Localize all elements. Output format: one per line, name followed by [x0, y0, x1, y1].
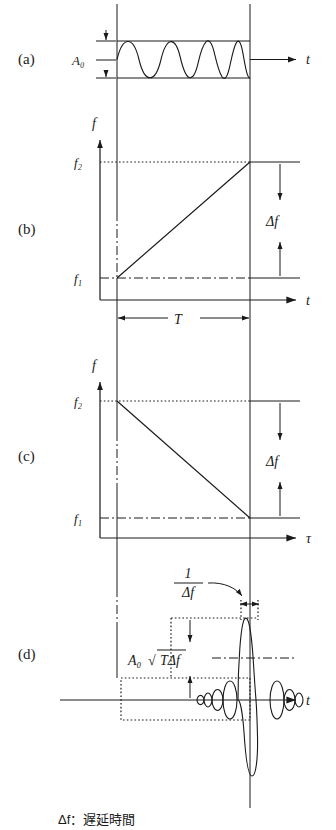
- panel-d-lower-dotted-box: [121, 678, 250, 720]
- panel-a: A₀ t (a): [18, 4, 311, 96]
- panel-c-f2-tick-label: f₂: [74, 394, 83, 409]
- panel-d-peak-amplitude-amplitude: A₀: [127, 653, 142, 668]
- panel-d-peak-amplitude-radicand: TΔf: [160, 653, 182, 668]
- panel-c: f τ f₂ f₁ Δf (c): [18, 336, 312, 568]
- panel-c-frequency-ramp: [117, 401, 250, 518]
- panel-b-f1-tick-label: f₁: [74, 271, 82, 286]
- panel-c-deltaf-label: Δf: [265, 454, 280, 469]
- panel-d: t 1 Δf A₀ √ TΔf (d): [18, 566, 311, 808]
- panel-b-label: (b): [18, 221, 36, 238]
- figure-canvas: A₀ t (a) f t f₂ f₁ Δf: [0, 0, 336, 830]
- panel-b-f2-tick-label: f₂: [74, 155, 83, 170]
- panel-b-frequency-ramp: [117, 162, 250, 278]
- panel-b-duration-label: T: [174, 312, 183, 327]
- panel-a-label: (a): [18, 51, 35, 68]
- panel-c-f1-tick-label: f₁: [74, 511, 82, 526]
- panel-d-width-denominator: Δf: [181, 585, 196, 600]
- figure-caption: Δf：遅延時間: [58, 812, 135, 827]
- panel-a-chirp-waveform: [117, 41, 250, 79]
- panel-d-compressed-pulse-sidelobe-right-3: [295, 693, 303, 707]
- panel-c-label: (c): [18, 448, 35, 465]
- figure-root: A₀ t (a) f t f₂ f₁ Δf: [0, 0, 336, 830]
- figure-caption-svg: Δf：遅延時間: [0, 806, 336, 830]
- figure-caption-inner: Δf：遅延時間: [0, 806, 336, 830]
- panel-b: f t f₂ f₁ Δf T (b): [18, 96, 311, 336]
- panel-c-f-axis-label: f: [92, 358, 98, 373]
- panel-d-label: (d): [18, 646, 36, 663]
- panel-d-width-leader-arrow: [208, 583, 242, 596]
- panel-b-t-axis-label: t: [306, 293, 311, 308]
- panel-d-peak-amplitude-radical: √: [148, 653, 156, 668]
- panel-d-t-axis-label: t: [306, 693, 311, 708]
- figure-caption-clip: Δf：遅延時間: [0, 806, 336, 830]
- panel-a-amplitude-label: A₀: [71, 53, 84, 68]
- panel-d-width-numerator: 1: [185, 566, 192, 581]
- panel-a-t-axis-label: t: [306, 52, 311, 67]
- panel-b-deltaf-label: Δf: [265, 214, 280, 229]
- panel-d-compressed-pulse-mainlobe: [238, 618, 258, 776]
- panel-b-f-axis-label: f: [92, 116, 98, 131]
- panel-c-tau-axis-label: τ: [306, 531, 312, 546]
